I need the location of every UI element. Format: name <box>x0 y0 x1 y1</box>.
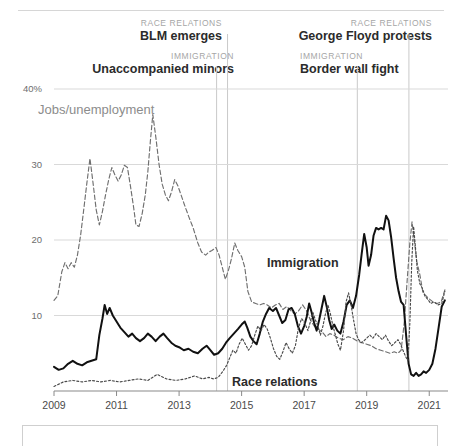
y-axis-tick-label: 40% <box>8 83 42 94</box>
y-axis-tick-label: 30 <box>8 159 42 170</box>
bottom-panel-edge <box>22 425 438 446</box>
x-axis-tick-label: 2021 <box>418 399 441 411</box>
gridlines <box>54 89 448 316</box>
series-label-jobs: Jobs/unemployment <box>38 102 154 117</box>
x-axis-tick-label: 2019 <box>355 399 378 411</box>
series-path-jobs-unemployment <box>54 115 445 354</box>
x-axis-tick-label: 2011 <box>105 399 128 411</box>
x-axis-tick-label: 2017 <box>292 399 315 411</box>
x-axis-tick-label: 2009 <box>42 399 65 411</box>
x-axis-tick-label: 2015 <box>230 399 253 411</box>
y-axis-tick-label: 20 <box>8 234 42 245</box>
y-axis-tick-label: 10 <box>8 310 42 321</box>
axis-lines <box>54 391 448 396</box>
series-label-race-relations: Race relations <box>232 375 317 389</box>
series-paths <box>54 115 445 387</box>
series-path-race-relations <box>54 226 445 386</box>
series-label-immigration: Immigration <box>267 256 339 270</box>
x-axis-tick-label: 2013 <box>167 399 190 411</box>
annotation-leader-lines <box>217 34 409 391</box>
